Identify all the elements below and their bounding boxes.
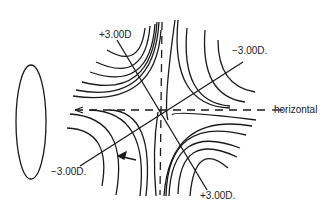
- diagram: +3.00D −3.00D. −3.00D. +3.00D. horizonta…: [0, 0, 330, 207]
- arrow-head: [118, 152, 126, 159]
- label-horizontal: horizontal: [274, 105, 317, 115]
- label-minus-bottom-left: −3.00D.: [51, 167, 86, 177]
- label-minus-top-right: −3.00D.: [232, 46, 267, 56]
- label-plus-bottom-right: +3.00D.: [200, 191, 235, 201]
- axis-line-positive: [117, 40, 207, 190]
- label-plus-top-left: +3.00D: [99, 30, 132, 40]
- ellipse-shape: [16, 65, 46, 179]
- vertical-meridian: [160, 22, 162, 195]
